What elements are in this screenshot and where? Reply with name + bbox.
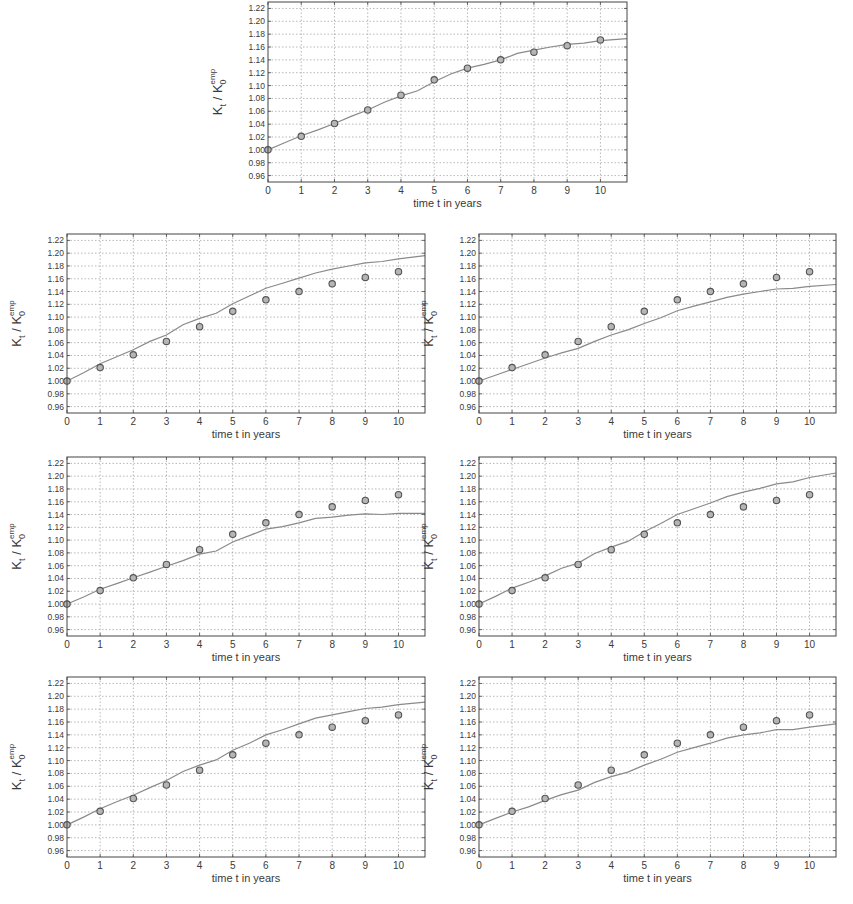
data-point <box>674 297 680 303</box>
y-tick-label: 1.22 <box>47 235 64 245</box>
data-point <box>542 575 548 581</box>
x-axis-label: time t in years <box>623 428 692 440</box>
x-tick-label: 7 <box>708 639 714 650</box>
data-point <box>163 561 169 567</box>
data-point <box>362 497 368 503</box>
data-point <box>97 587 103 593</box>
x-tick-label: 2 <box>131 860 137 871</box>
y-tick-label: 1.10 <box>459 312 476 322</box>
y-tick-label: 1.10 <box>47 312 64 322</box>
data-point <box>97 364 103 370</box>
y-axis-label: Kt / K0emp <box>208 68 228 115</box>
x-tick-label: 1 <box>97 416 103 427</box>
data-point <box>740 504 746 510</box>
x-tick-label: 2 <box>542 416 548 427</box>
x-tick-label: 2 <box>332 185 338 196</box>
x-tick-label: 5 <box>641 416 647 427</box>
data-point <box>773 497 779 503</box>
y-tick-label: 1.08 <box>47 548 64 558</box>
data-point <box>362 718 368 724</box>
y-tick-label: 1.08 <box>47 768 64 778</box>
data-point <box>130 575 136 581</box>
data-point <box>163 782 169 788</box>
y-tick-label: 1.18 <box>248 29 265 39</box>
y-tick-label: 1.16 <box>459 274 476 284</box>
data-point <box>575 338 581 344</box>
data-point <box>365 107 371 113</box>
chart-svg: 0123456789100.960.981.001.021.041.061.08… <box>5 230 429 449</box>
y-tick-label: 1.04 <box>47 794 64 804</box>
data-point <box>509 364 515 370</box>
x-tick-label: 5 <box>230 639 236 650</box>
y-tick-label: 0.96 <box>459 402 476 412</box>
y-tick-label: 1.00 <box>459 376 476 386</box>
x-tick-label: 0 <box>64 416 70 427</box>
y-tick-label: 1.10 <box>47 535 64 545</box>
data-point <box>395 269 401 275</box>
x-tick-label: 1 <box>298 185 304 196</box>
x-tick-label: 8 <box>329 416 335 427</box>
data-point <box>329 724 335 730</box>
y-tick-label: 0.98 <box>47 833 64 843</box>
x-tick-label: 10 <box>804 416 816 427</box>
data-point <box>674 520 680 526</box>
x-tick-label: 9 <box>363 860 369 871</box>
chart-svg: 0123456789100.960.981.001.021.041.061.08… <box>417 230 840 449</box>
y-tick-label: 1.20 <box>47 248 64 258</box>
y-tick-label: 0.98 <box>459 833 476 843</box>
x-axis-label: time t in years <box>623 651 692 663</box>
x-tick-label: 8 <box>741 860 747 871</box>
x-tick-label: 7 <box>708 860 714 871</box>
x-tick-label: 9 <box>564 185 570 196</box>
y-tick-label: 1.14 <box>459 287 476 297</box>
y-tick-label: 1.00 <box>248 145 265 155</box>
data-point <box>542 795 548 801</box>
y-tick-label: 1.14 <box>459 510 476 520</box>
x-tick-label: 2 <box>131 416 137 427</box>
data-point <box>263 520 269 526</box>
x-tick-label: 9 <box>774 639 780 650</box>
y-tick-label: 1.02 <box>248 132 265 142</box>
x-tick-label: 8 <box>329 639 335 650</box>
x-axis-label: time t in years <box>413 197 482 209</box>
x-tick-label: 5 <box>641 639 647 650</box>
x-tick-label: 4 <box>608 416 614 427</box>
y-tick-label: 1.06 <box>248 106 265 116</box>
data-point <box>608 767 614 773</box>
x-tick-label: 8 <box>741 639 747 650</box>
x-tick-label: 1 <box>97 639 103 650</box>
chart-panel-top-center: 0123456789100.960.981.001.021.041.061.08… <box>206 0 631 222</box>
data-point <box>542 352 548 358</box>
x-tick-label: 6 <box>263 639 269 650</box>
data-point <box>773 718 779 724</box>
data-point <box>362 274 368 280</box>
x-tick-label: 9 <box>363 416 369 427</box>
y-axis-label: Kt / K0emp <box>419 300 439 347</box>
y-tick-label: 1.16 <box>248 42 265 52</box>
data-point <box>331 120 337 126</box>
y-tick-label: 0.98 <box>459 612 476 622</box>
y-tick-label: 1.20 <box>459 691 476 701</box>
x-tick-label: 3 <box>575 639 581 650</box>
data-point <box>806 492 812 498</box>
data-point <box>431 77 437 83</box>
y-tick-label: 1.06 <box>459 338 476 348</box>
data-point <box>509 587 515 593</box>
x-tick-label: 6 <box>675 860 681 871</box>
y-tick-label: 1.12 <box>459 743 476 753</box>
y-tick-label: 1.14 <box>47 287 64 297</box>
x-tick-label: 6 <box>465 185 471 196</box>
x-tick-label: 1 <box>509 860 515 871</box>
data-point <box>564 43 570 49</box>
y-tick-label: 1.08 <box>47 325 64 335</box>
x-tick-label: 6 <box>263 416 269 427</box>
y-tick-label: 1.02 <box>459 807 476 817</box>
x-tick-label: 8 <box>741 416 747 427</box>
y-tick-label: 1.08 <box>248 93 265 103</box>
data-point <box>395 712 401 718</box>
x-axis-label: time t in years <box>623 872 692 884</box>
x-tick-label: 3 <box>164 416 170 427</box>
y-tick-label: 1.22 <box>47 678 64 688</box>
data-point <box>196 767 202 773</box>
y-tick-label: 1.04 <box>248 119 265 129</box>
